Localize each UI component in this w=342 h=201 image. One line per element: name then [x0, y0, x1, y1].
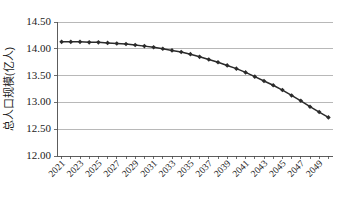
data-point-2038 — [216, 60, 221, 65]
ytick-label-13.00: 13.00 — [26, 95, 51, 107]
data-point-2035 — [188, 52, 193, 57]
data-point-2029 — [133, 43, 138, 48]
data-point-2030 — [142, 44, 147, 49]
data-point-2034 — [179, 50, 184, 55]
ytick-label-12.00: 12.00 — [26, 149, 51, 161]
data-point-2036 — [197, 55, 202, 60]
data-point-2041 — [243, 70, 248, 75]
data-point-2022 — [69, 40, 74, 45]
xtick-label-2031: 2031 — [139, 158, 160, 179]
series-line-population — [62, 42, 329, 118]
data-point-2024 — [87, 40, 92, 45]
xtick-label-2049: 2049 — [304, 158, 325, 179]
xtick-label-2047: 2047 — [286, 158, 307, 179]
xtick-label-2029: 2029 — [120, 158, 141, 179]
xtick-label-2027: 2027 — [102, 158, 123, 179]
xtick-label-2037: 2037 — [194, 158, 215, 179]
xtick-label-2041: 2041 — [231, 158, 252, 179]
chart-canvas: 12.0012.5013.0013.5014.0014.502021202320… — [0, 0, 342, 201]
xtick-label-2021: 2021 — [47, 158, 68, 179]
data-point-2021 — [59, 40, 64, 45]
ytick-label-14.00: 14.00 — [26, 42, 51, 54]
data-point-2026 — [105, 41, 110, 46]
y-axis-title: 总人口规模(亿人) — [2, 47, 15, 131]
xtick-label-2045: 2045 — [267, 158, 288, 179]
data-point-2037 — [207, 57, 212, 62]
xtick-label-2033: 2033 — [157, 158, 178, 179]
xtick-label-2039: 2039 — [212, 158, 233, 179]
data-point-2023 — [78, 40, 83, 45]
ytick-label-12.50: 12.50 — [26, 122, 51, 134]
data-point-2042 — [253, 74, 258, 79]
data-point-2039 — [225, 63, 230, 68]
xtick-label-2025: 2025 — [83, 158, 104, 179]
population-line-chart: 12.0012.5013.0013.5014.0014.502021202320… — [0, 0, 342, 201]
ytick-label-14.50: 14.50 — [26, 15, 51, 27]
data-point-2040 — [234, 66, 239, 71]
data-point-2032 — [161, 47, 166, 52]
xtick-label-2035: 2035 — [175, 158, 196, 179]
data-point-2025 — [96, 40, 101, 45]
ytick-label-13.50: 13.50 — [26, 69, 51, 81]
xtick-label-2043: 2043 — [249, 158, 270, 179]
xtick-label-2023: 2023 — [65, 158, 86, 179]
data-point-2027 — [115, 41, 120, 46]
data-point-2043 — [262, 79, 267, 84]
data-point-2028 — [124, 42, 129, 47]
